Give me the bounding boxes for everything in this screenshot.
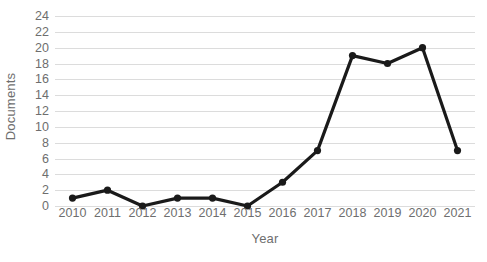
x-axis-tick-label: 2015 [234, 207, 262, 220]
y-axis-tick-labels: 242220181614121086420 [22, 16, 52, 206]
data-point-marker: 2020: 20 [419, 44, 426, 51]
series-line [73, 48, 458, 206]
y-axis-title: Documents [0, 0, 22, 212]
x-axis-tick-label: 2013 [164, 207, 192, 220]
y-axis-tick-label: 24 [35, 10, 49, 23]
x-axis-tick-label: 2012 [129, 207, 157, 220]
data-point-marker: 2014: 1 [209, 194, 216, 201]
y-axis-tick-label: 0 [42, 200, 49, 213]
data-point-marker: 2011: 2 [104, 187, 111, 194]
x-axis-tick-label: 2011 [94, 207, 121, 220]
data-point-marker: 2017: 7 [314, 147, 321, 154]
x-axis-title: Year [55, 231, 475, 246]
series-documents: 2010: 12011: 22012: 02013: 12014: 12015:… [55, 16, 475, 206]
documents-per-year-line-chart: Documents 242220181614121086420 2010: 12… [0, 0, 487, 262]
data-point-marker: 2013: 1 [174, 194, 181, 201]
x-axis-tick-label: 2016 [269, 207, 297, 220]
x-axis-title-label: Year [251, 231, 278, 246]
x-axis-tick-label: 2014 [199, 207, 227, 220]
x-axis-tick-label: 2020 [409, 207, 437, 220]
y-axis-tick-label: 18 [35, 57, 49, 70]
x-axis-tick-labels: 2010201120122013201420152016201720182019… [55, 207, 475, 227]
x-axis-tick-label: 2019 [374, 207, 402, 220]
y-axis-tick-label: 12 [35, 105, 49, 118]
y-axis-tick-label: 22 [35, 26, 49, 39]
series-markers: 2010: 12011: 22012: 02013: 12014: 12015:… [69, 44, 461, 210]
y-axis-title-label: Documents [4, 72, 19, 140]
plot-area: 2010: 12011: 22012: 02013: 12014: 12015:… [55, 16, 475, 206]
data-point-marker: 2016: 3 [279, 179, 286, 186]
data-point-marker: 2018: 19 [349, 52, 356, 59]
x-axis-tick-label: 2021 [444, 207, 472, 220]
y-axis-tick-label: 16 [35, 73, 49, 86]
y-axis-tick-label: 14 [35, 89, 49, 102]
data-point-marker: 2019: 18 [384, 60, 391, 67]
y-axis-tick-label: 4 [42, 168, 49, 181]
x-axis-tick-label: 2018 [339, 207, 367, 220]
data-point-marker: 2021: 7 [454, 147, 461, 154]
x-axis-tick-label: 2010 [59, 207, 87, 220]
y-axis-tick-label: 2 [42, 184, 49, 197]
y-axis-tick-label: 20 [35, 41, 49, 54]
y-axis-tick-label: 10 [35, 121, 49, 134]
y-axis-tick-label: 6 [42, 152, 49, 165]
x-axis-tick-label: 2017 [304, 207, 332, 220]
data-point-marker: 2010: 1 [69, 194, 76, 201]
y-axis-tick-label: 8 [42, 136, 49, 149]
